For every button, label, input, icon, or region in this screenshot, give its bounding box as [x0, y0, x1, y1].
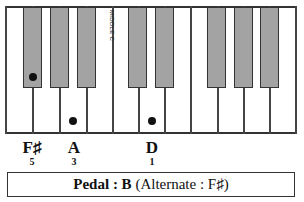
- note-label: F♯: [17, 138, 47, 158]
- white-key-divider: [190, 6, 192, 134]
- note-label: D: [137, 138, 167, 158]
- black-key: [77, 7, 96, 88]
- white-key-divider: [295, 6, 297, 134]
- black-key: [50, 7, 69, 88]
- black-key: [128, 7, 147, 88]
- middle-c-label: MIDDLE C: [109, 10, 115, 41]
- pedal-box: Pedal : B (Alternate : F♯): [7, 172, 295, 197]
- finger-number: 3: [59, 156, 89, 167]
- pedal-alternate: (Alternate : F♯): [135, 176, 228, 192]
- white-key-divider: [5, 6, 7, 134]
- pedal-label: Pedal : B: [73, 176, 131, 192]
- finger-number: 5: [17, 156, 47, 167]
- note-label: A: [59, 138, 89, 158]
- black-key: [155, 7, 174, 88]
- note-dot-d: [148, 117, 156, 125]
- note-dot-a: [69, 117, 77, 125]
- finger-number: 1: [137, 156, 167, 167]
- black-key: [207, 7, 226, 88]
- black-key: [260, 7, 279, 88]
- note-dot-f-sharp: [29, 73, 37, 81]
- black-key: [234, 7, 253, 88]
